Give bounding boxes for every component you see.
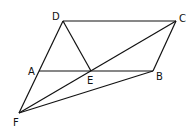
geometry-diagram: D C A E B F — [0, 0, 195, 135]
segments — [19, 21, 176, 113]
label-A: A — [28, 66, 35, 77]
label-C: C — [179, 13, 186, 24]
segment-CF — [19, 21, 176, 113]
segment-CB — [153, 21, 176, 71]
label-B: B — [156, 71, 163, 82]
segment-DF — [19, 21, 63, 113]
segment-DE — [63, 21, 91, 71]
label-E: E — [87, 75, 93, 86]
label-F: F — [13, 117, 19, 128]
segment-BF — [19, 71, 153, 113]
point-labels: D C A E B F — [13, 11, 186, 128]
label-D: D — [52, 11, 60, 22]
